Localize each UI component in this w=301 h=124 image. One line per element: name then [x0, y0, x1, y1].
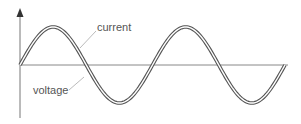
current-label: current — [97, 21, 131, 33]
phase-diagram: current voltage — [0, 0, 301, 124]
voltage-label: voltage — [33, 84, 68, 96]
axis-arrow-icon — [17, 8, 24, 17]
voltage-leader-line — [69, 77, 84, 90]
current-leader-line — [80, 31, 96, 48]
